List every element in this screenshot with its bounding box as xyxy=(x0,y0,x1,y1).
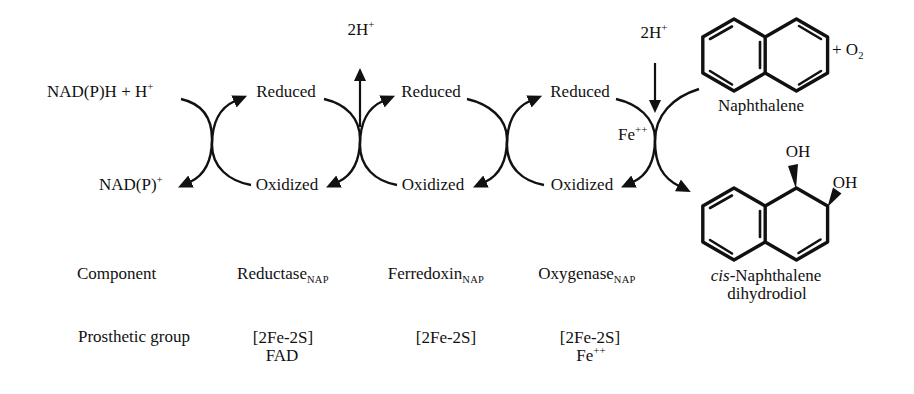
nadph-sup: + xyxy=(147,80,153,92)
oxygenase-sub: NAP xyxy=(614,274,636,285)
reduced-to-oxidized-arrow-2 xyxy=(467,99,507,182)
prosthetic-oxygenase-1: [2Fe-2S] xyxy=(560,329,620,348)
redox-junction-2 xyxy=(324,80,397,185)
nadph-to-nadp-arrow xyxy=(181,99,212,182)
prosthetic-oxygenase-2: Fe++ xyxy=(576,347,605,366)
hydroxyl-label-1: OH xyxy=(786,143,811,162)
proton-release-label: 2H+ xyxy=(348,21,375,40)
dihydrodiol-structure xyxy=(703,164,842,260)
iron-site-label: Fe++ xyxy=(618,126,647,145)
oxygen-sub: 2 xyxy=(858,50,864,61)
iron-site-text: Fe xyxy=(618,125,635,144)
oxidized-label-3: Oxidized xyxy=(551,176,613,195)
oxygenase-iron-text: Fe xyxy=(576,346,593,365)
oxygenase-text: Oxygenase xyxy=(538,264,614,283)
proton-release-text: 2H xyxy=(348,20,369,39)
hydroxyl-label-2: OH xyxy=(833,174,858,193)
proton-uptake-text: 2H xyxy=(641,23,662,42)
prosthetic-row-header: Prosthetic group xyxy=(78,328,190,347)
product-name-rest: -Naphthalene xyxy=(730,266,822,285)
oxygenase-iron-sup: ++ xyxy=(593,344,605,356)
naphthalene-to-diol-arrow xyxy=(655,89,699,186)
proton-uptake-label: 2H+ xyxy=(641,24,668,43)
wedge-bond-oh1 xyxy=(788,164,798,189)
product-name-line2: dihydrodiol xyxy=(727,285,806,304)
naphthalene-structure xyxy=(703,19,828,91)
oxygen-text: + O xyxy=(832,40,858,59)
iron-site-sup: ++ xyxy=(635,123,647,135)
nadp-sup: + xyxy=(157,173,163,185)
redox-junction-1 xyxy=(181,99,251,185)
component-ferredoxin: FerredoxinNAP xyxy=(388,265,485,284)
reduced-label-3: Reduced xyxy=(550,83,609,102)
nadp-label: NAD(P)+ xyxy=(99,176,163,195)
redox-junction-3 xyxy=(467,99,544,185)
reduced-label-2: Reduced xyxy=(401,83,460,102)
proton-uptake-sup: + xyxy=(661,21,667,33)
oxidized-to-reduced-arrow-2 xyxy=(360,101,397,185)
component-reductase: ReductaseNAP xyxy=(237,265,329,284)
ferredoxin-text: Ferredoxin xyxy=(388,264,463,283)
naphthalene-label: Naphthalene xyxy=(718,97,804,116)
oxygen-label: + O2 xyxy=(832,41,864,60)
nadph-label: NAD(P)H + H+ xyxy=(47,83,153,102)
nadph-text: NAD(P)H + H xyxy=(47,82,147,101)
reduced-label-1: Reduced xyxy=(256,83,315,102)
oxidized-to-reduced-arrow-1 xyxy=(212,101,251,185)
product-name-line1: cis-Naphthalene xyxy=(711,267,821,286)
reductase-text: Reductase xyxy=(237,264,307,283)
prosthetic-ferredoxin-1: [2Fe-2S] xyxy=(416,329,476,348)
prosthetic-reductase-1: [2Fe-2S] xyxy=(253,329,313,348)
component-oxygenase: OxygenaseNAP xyxy=(538,265,635,284)
prosthetic-reductase-2: FAD xyxy=(266,347,299,366)
oxidized-label-1: Oxidized xyxy=(256,176,318,195)
reductase-sub: NAP xyxy=(307,274,329,285)
proton-release-sup: + xyxy=(368,18,374,30)
component-row-header: Component xyxy=(77,265,156,284)
nadp-text: NAD(P) xyxy=(99,175,157,194)
ferredoxin-sub: NAP xyxy=(462,274,484,285)
oxidized-to-reduced-arrow-3 xyxy=(507,101,544,185)
pathway-figure: NAD(P)H + H+ NAD(P)+ Reduced Oxidized Re… xyxy=(0,0,914,394)
product-name-cis: cis xyxy=(711,266,730,285)
oxidized-label-2: Oxidized xyxy=(402,176,464,195)
reduced-to-oxidized-arrow-1 xyxy=(324,99,360,182)
